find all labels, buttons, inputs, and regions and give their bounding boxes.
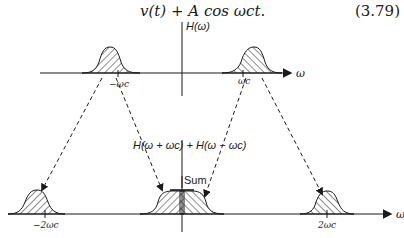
sum-annotation: Sum	[184, 174, 207, 186]
frequency-shift-diagram: H(ω) ω −ωc ωc H(ω + ωc) + H(ω − ωc) Sum …	[0, 0, 404, 238]
minus-2wc-tick-label: −2ωc	[33, 220, 59, 230]
bottom-spectrum: H(ω + ωc) + H(ω − ωc) Sum −2ωc 2ωc ω	[8, 139, 404, 232]
center-right-bump	[180, 191, 224, 214]
bottom-x-axis-label: ω	[396, 208, 404, 221]
sum-expression-label: H(ω + ωc) + H(ω − ωc)	[133, 139, 247, 151]
right-bump	[222, 47, 282, 73]
arrow-left-to-center	[116, 78, 162, 190]
top-x-axis-label: ω	[296, 67, 305, 80]
left-bump	[82, 47, 140, 73]
arrow-left-to-minus2wc	[42, 78, 102, 190]
minus-2wc-bump	[8, 190, 65, 214]
2wc-tick-label: 2ωc	[317, 220, 336, 230]
right-tick-label: ωc	[238, 76, 250, 86]
center-left-bump	[140, 191, 184, 214]
y-axis-label: H(ω)	[186, 20, 210, 32]
left-tick-label: −ωc	[109, 79, 129, 89]
arrow-right-to-center	[205, 78, 246, 196]
arrow-right-to-2wc	[262, 78, 322, 194]
